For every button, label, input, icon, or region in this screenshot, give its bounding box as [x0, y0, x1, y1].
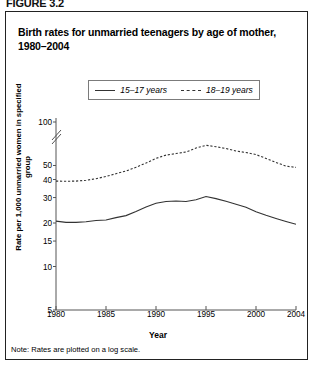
- chart-note: Note: Rates are plotted on a log scale.: [11, 345, 140, 354]
- figure-container: FIGURE 3.2 Birth rates for unmarried tee…: [0, 0, 316, 371]
- series-line-15-17: [56, 197, 296, 225]
- axis-lines: [56, 118, 296, 310]
- chart-plot-area: [0, 0, 316, 371]
- tick-marks: [53, 122, 296, 310]
- series-line-18-19: [56, 145, 296, 181]
- x-axis-label: Year: [0, 330, 316, 340]
